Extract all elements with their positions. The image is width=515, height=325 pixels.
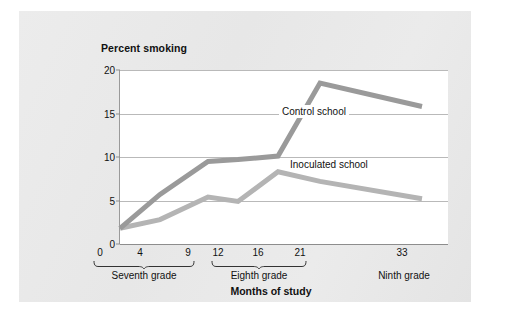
plot-area: 20 15 10 5 0 Control sc	[119, 70, 448, 244]
x-axis-label-21: 21	[294, 247, 305, 258]
y-axis-label-20: 20	[104, 65, 115, 76]
series-line-inoculated	[120, 172, 422, 229]
bracket-seventh-grade	[93, 261, 195, 268]
grade-label-eighth: Eighth grade	[231, 270, 288, 281]
y-axis-label-5: 5	[109, 195, 115, 206]
x-axis-label-4: 4	[137, 247, 143, 258]
page-title: Percent smoking	[101, 42, 187, 54]
series-annotation-inoculated: Inoculated school	[287, 158, 371, 171]
x-axis-title: Months of study	[230, 285, 311, 297]
series-overlay	[120, 70, 448, 244]
x-axis-label-16: 16	[252, 247, 263, 258]
scanned-page: Percent smoking 20 15 10 5 0	[19, 11, 471, 302]
x-axis-label-9: 9	[185, 247, 191, 258]
y-axis-label-15: 15	[104, 108, 115, 119]
grade-label-seventh: Seventh grade	[111, 270, 176, 281]
series-annotation-control: Control school	[279, 105, 349, 118]
x-axis-label-0: 0	[97, 247, 103, 258]
bracket-eighth-grade	[211, 261, 307, 268]
x-axis-label-12: 12	[212, 247, 223, 258]
screenshot-root: Percent smoking 20 15 10 5 0	[0, 0, 515, 325]
series-line-control	[120, 83, 422, 228]
y-axis-label-10: 10	[104, 152, 115, 163]
grade-label-ninth: Ninth grade	[378, 270, 430, 281]
y-axis-label-0: 0	[109, 239, 115, 250]
x-axis-line	[120, 244, 448, 245]
x-axis-label-33: 33	[396, 247, 407, 258]
